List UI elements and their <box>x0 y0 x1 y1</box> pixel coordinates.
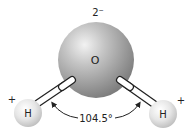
hydrogen-right-charge: + <box>177 95 185 106</box>
angle-arc-left <box>53 104 78 118</box>
water-molecule-diagram: O 2⁻ H H + + 104.5° <box>0 0 193 135</box>
oxygen-symbol: O <box>91 54 100 67</box>
bond-angle-label: 104.5° <box>79 113 113 124</box>
hydrogen-right-symbol: H <box>159 109 167 120</box>
hydrogen-left-symbol: H <box>24 108 32 119</box>
hydrogen-left-charge: + <box>8 94 16 105</box>
oxygen-charge: 2⁻ <box>92 7 104 18</box>
angle-arc-right <box>115 104 139 118</box>
